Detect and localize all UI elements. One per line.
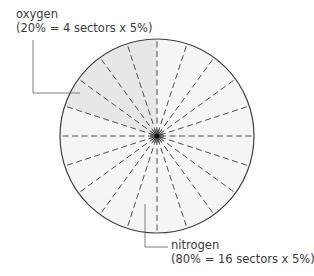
nitrogen-label: nitrogen (80% = 16 sectors x 5%) — [171, 238, 314, 266]
gas-composition-pie-diagram — [0, 0, 314, 276]
nitrogen-title: nitrogen — [171, 238, 314, 252]
oxygen-title: oxygen — [16, 7, 152, 21]
nitrogen-detail: (80% = 16 sectors x 5%) — [171, 252, 314, 266]
oxygen-label: oxygen (20% = 4 sectors x 5%) — [16, 7, 152, 35]
oxygen-detail: (20% = 4 sectors x 5%) — [16, 21, 152, 35]
oxygen-leader-line — [33, 40, 80, 93]
